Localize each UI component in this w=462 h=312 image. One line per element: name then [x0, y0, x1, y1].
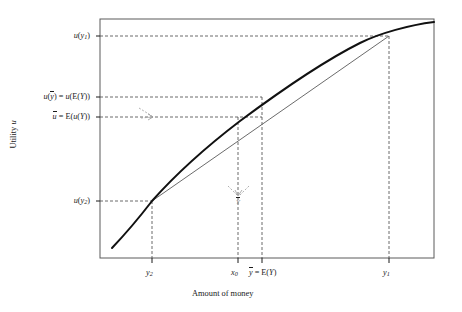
ytick-label-ubar: u = E(u(Y)) [53, 112, 90, 121]
utility-curve [112, 22, 434, 248]
y-axis-title-text: Utility [9, 125, 18, 149]
xtick-label-y1: y1 [383, 268, 390, 277]
plot-canvas [0, 0, 462, 312]
plot-frame [100, 19, 434, 258]
risk-premium-arrow-annotation [139, 108, 153, 120]
xtick-label-y2: y2 [146, 268, 153, 277]
ytick-label-u-y1: u(y1) [74, 31, 90, 40]
x-axis-title: Amount of money [192, 289, 253, 298]
xtick-label-x0: x0 [231, 268, 238, 277]
y-bracket-arrow-annotation [228, 186, 249, 196]
chord-line [152, 36, 389, 201]
y-axis-title: Utility u [9, 105, 18, 165]
annotation-label-y: Y [236, 198, 240, 206]
x-axis-title-text: Amount of money [192, 289, 253, 298]
xtick-label-ybar: y = E(Y) [249, 268, 276, 277]
y-axis-title-var: u [9, 120, 18, 124]
ytick-label-u-ybar: u(y) = u(E(Y)) [44, 92, 91, 101]
utility-function-figure: u(y1) u(y) = u(E(Y)) u = E(u(Y)) u(y2) y… [0, 0, 462, 312]
ytick-label-u-y2: u(y2) [74, 196, 90, 205]
